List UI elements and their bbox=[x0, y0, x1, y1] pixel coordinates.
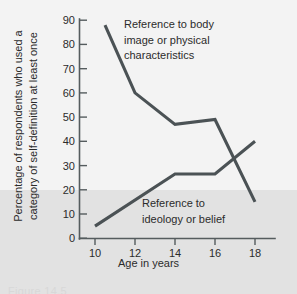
y-tick-label: 60 bbox=[63, 87, 75, 99]
y-axis-ticks bbox=[80, 20, 87, 238]
figure-caption-cropped: Figure 14.5 bbox=[8, 285, 67, 294]
annotation-line: image or physical bbox=[124, 33, 254, 49]
y-tick-label: 70 bbox=[63, 63, 75, 75]
annotation-line: Reference to bbox=[142, 196, 262, 212]
y-tick-labels: 90 80 70 60 50 40 30 20 10 0 bbox=[63, 14, 75, 244]
y-tick-label: 30 bbox=[63, 160, 75, 172]
annotation-ideology: Reference to ideology or belief bbox=[142, 196, 262, 227]
annotation-body-image: Reference to body image or physical char… bbox=[124, 17, 254, 64]
annotation-line: Reference to body bbox=[124, 17, 254, 33]
annotation-line: characteristics bbox=[124, 48, 254, 64]
y-axis-title-line-1: Percentage of respondents who used a bbox=[11, 14, 26, 238]
y-tick-label: 20 bbox=[63, 184, 75, 196]
y-tick-label: 80 bbox=[63, 38, 75, 50]
annotation-line: ideology or belief bbox=[142, 212, 262, 228]
y-tick-label: 10 bbox=[63, 208, 75, 220]
y-tick-label: 90 bbox=[63, 14, 75, 26]
x-axis-title: Age in years bbox=[0, 257, 297, 269]
y-axis-title: Percentage of respondents who used a cat… bbox=[6, 14, 46, 238]
y-tick-label: 40 bbox=[63, 135, 75, 147]
y-tick-label: 50 bbox=[63, 111, 75, 123]
figure-container: 90 80 70 60 50 40 30 20 10 0 10 12 14 16… bbox=[0, 0, 297, 294]
y-axis-title-line-2: category of self-definition at least onc… bbox=[26, 14, 41, 238]
y-tick-label: 0 bbox=[69, 232, 75, 244]
x-axis-ticks bbox=[95, 239, 255, 245]
